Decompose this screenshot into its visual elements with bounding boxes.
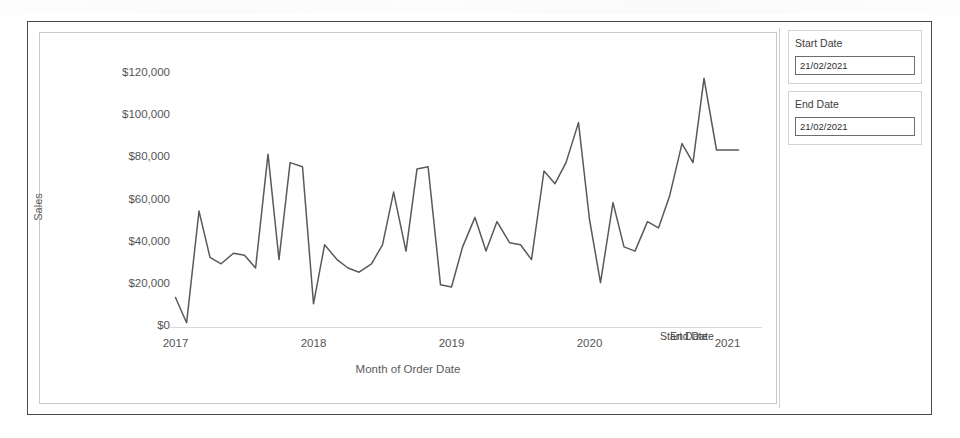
start-date-label: Start Date bbox=[795, 37, 915, 49]
end-date-filter-card: End Date bbox=[788, 91, 922, 145]
date-filter-panel: Start Date End Date bbox=[788, 30, 922, 152]
start-date-input[interactable] bbox=[795, 56, 915, 75]
x-tick-label: 2017 bbox=[163, 337, 189, 349]
x-tick-label: 2019 bbox=[439, 337, 465, 349]
start-date-filter-card: Start Date bbox=[788, 30, 922, 84]
scan-noise bbox=[0, 0, 960, 14]
series-sales-line bbox=[40, 33, 778, 405]
dashboard-container: Sales $0$20,000$40,000$60,000$80,000$100… bbox=[27, 21, 932, 415]
sales-line-chart: Sales $0$20,000$40,000$60,000$80,000$100… bbox=[39, 32, 777, 404]
pane-divider bbox=[779, 28, 780, 408]
x-axis-title: Month of Order Date bbox=[40, 363, 776, 375]
x-tick-label: 2018 bbox=[301, 337, 327, 349]
end-date-reference-label: End Date bbox=[670, 330, 714, 342]
plot-area: Sales $0$20,000$40,000$60,000$80,000$100… bbox=[40, 33, 776, 403]
end-date-input[interactable] bbox=[795, 117, 915, 136]
x-tick-label: 2021 bbox=[715, 337, 741, 349]
end-date-label: End Date bbox=[795, 98, 915, 110]
x-tick-label: 2020 bbox=[577, 337, 603, 349]
